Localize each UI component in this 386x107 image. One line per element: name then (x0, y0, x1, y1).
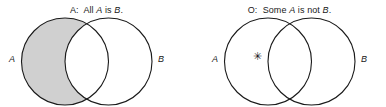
caption-prefix: A: (70, 5, 79, 15)
circle-label-b: B (361, 54, 367, 64)
venn-diagram-figure: A: All A is B. A B O: Some A is not B. ✳… (0, 0, 386, 107)
caption-prefix: O: (248, 5, 258, 15)
circle-label-a: A (212, 54, 218, 64)
circle-label-a: A (9, 54, 15, 64)
caption-text-1: Some (263, 5, 290, 15)
caption-proposition-a: A: All A is B. (0, 4, 193, 16)
venn-circles-a (0, 16, 193, 107)
circle-label-b: B (158, 54, 164, 64)
caption-text-2: is (102, 5, 114, 15)
asterisk-mark: ✳ (253, 51, 262, 62)
caption-text-3: . (120, 5, 123, 15)
venn-circles-o (193, 16, 386, 107)
caption-text-3: . (329, 5, 332, 15)
caption-text-1: All (83, 5, 96, 15)
panel-proposition-a: A: All A is B. A B (0, 0, 193, 107)
caption-text-2: is not (295, 5, 322, 15)
panel-proposition-o: O: Some A is not B. ✳ A B (193, 0, 386, 107)
caption-proposition-o: O: Some A is not B. (193, 4, 386, 16)
